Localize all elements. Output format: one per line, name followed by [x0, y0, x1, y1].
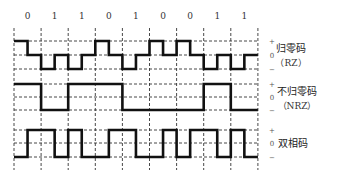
level-marker-zero: 0 — [270, 94, 274, 102]
signal-encoding-diagram: 011010011 +0−+0−+0− 归零码 （RZ） 不归零码 （NRZ） … — [0, 0, 337, 185]
level-markers: +0−+0−+0− — [269, 38, 275, 162]
bit-label: 0 — [160, 11, 166, 21]
level-marker-minus: − — [269, 154, 275, 162]
level-marker-plus: + — [269, 127, 275, 135]
level-marker-minus: − — [269, 66, 275, 74]
bit-label: 1 — [214, 11, 220, 21]
bit-label: 1 — [52, 11, 58, 21]
bit-label: 0 — [25, 11, 31, 21]
bit-sequence-labels: 011010011 — [25, 11, 248, 21]
level-marker-minus: − — [269, 107, 275, 115]
level-marker-zero: 0 — [270, 140, 274, 148]
level-marker-zero: 0 — [270, 52, 274, 60]
biphase-label: 双相码 — [278, 137, 308, 149]
level-marker-plus: + — [269, 81, 275, 89]
biphase-waveform — [14, 130, 258, 157]
bit-label: 1 — [133, 11, 139, 21]
nrz-sublabel: （NRZ） — [278, 101, 317, 111]
rz-sublabel: （RZ） — [275, 58, 306, 68]
row-labels: 归零码 （RZ） 不归零码 （NRZ） 双相码 — [275, 42, 317, 149]
bit-label: 1 — [79, 11, 85, 21]
bit-label: 0 — [106, 11, 112, 21]
bit-label: 0 — [187, 11, 193, 21]
rz-label: 归零码 — [276, 42, 306, 54]
nrz-label: 不归零码 — [277, 85, 317, 97]
bit-label: 1 — [241, 11, 247, 21]
waveforms — [14, 41, 258, 157]
level-marker-plus: + — [269, 38, 275, 46]
